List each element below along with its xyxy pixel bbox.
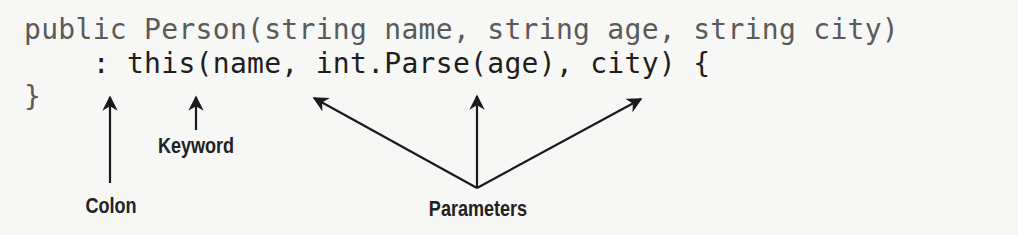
parameter-arrow-name-icon [314,98,477,188]
colon-label: Colon [76,193,147,219]
parameters-label: Parameters [418,196,538,222]
parameter-arrow-city-icon [477,99,641,188]
keyword-label: Keyword [150,133,242,159]
